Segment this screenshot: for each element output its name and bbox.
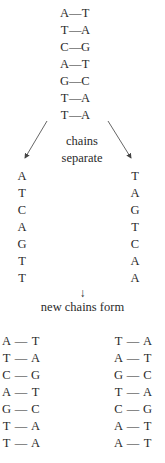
base: G (16, 236, 28, 253)
base: T (129, 168, 141, 185)
bond: — (123, 435, 143, 452)
base-left: G (114, 367, 123, 384)
bond: — (123, 333, 143, 350)
base-left: T (2, 350, 11, 367)
base-right: A (31, 350, 40, 367)
bond: — (11, 350, 31, 367)
base-pair: T—A (2, 435, 40, 452)
separated-left-strand: A T C A G T T (16, 168, 28, 287)
bond: — (123, 367, 143, 384)
base: G (129, 202, 141, 219)
base-right: T (143, 435, 152, 452)
base-pair: A—T (114, 435, 152, 452)
base-pair: G—C (114, 367, 152, 384)
base-right: A (143, 333, 152, 350)
base-pair: T—A (2, 418, 40, 435)
base-right: C (143, 367, 152, 384)
bond: — (11, 401, 31, 418)
base: A (129, 253, 141, 270)
base-pair: A—T (2, 333, 40, 350)
bond: — (123, 401, 143, 418)
bond: — (11, 367, 31, 384)
base-left: A (114, 350, 123, 367)
base: A (16, 219, 28, 236)
base-left: C (114, 401, 123, 418)
base-pair: A—T (2, 384, 40, 401)
bond: — (11, 384, 31, 401)
base-pair: C—G (2, 367, 40, 384)
base-pair: T—A (2, 350, 40, 367)
base: A (16, 168, 28, 185)
base-left: T (2, 418, 11, 435)
base-pair: T—A (114, 384, 152, 401)
bond: — (123, 350, 143, 367)
base-right: T (143, 350, 152, 367)
arrow-left-icon (25, 121, 47, 158)
base-right: C (31, 401, 40, 418)
base-pair: A—T (114, 350, 152, 367)
step1-label-line1: chains (52, 133, 112, 150)
base-left: A (2, 384, 11, 401)
base-right: T (31, 333, 40, 350)
base: C (129, 236, 141, 253)
base-left: G (2, 401, 11, 418)
step2-label: new chains form (20, 299, 145, 316)
base-right: A (31, 418, 40, 435)
bond: — (123, 384, 143, 401)
base: T (16, 185, 28, 202)
base-left: T (114, 333, 123, 350)
base-right: G (31, 367, 40, 384)
new-duplex-right: T—A A—T G—C T—A C—G A—T A—T (114, 333, 152, 452)
base-right: G (143, 401, 152, 418)
bond: — (11, 418, 31, 435)
base-right: T (31, 384, 40, 401)
base-pair: C—G (114, 401, 152, 418)
base-pair: G—C (2, 401, 40, 418)
base: C (16, 202, 28, 219)
base-left: T (114, 384, 123, 401)
base-left: C (2, 367, 11, 384)
base-right: A (31, 435, 40, 452)
base: A (129, 270, 141, 287)
base-left: A (114, 418, 123, 435)
bond: — (123, 418, 143, 435)
base-pair: A—T (114, 418, 152, 435)
new-duplex-left: A—T T—A C—G A—T G—C T—A T—A (2, 333, 40, 452)
base-left: A (114, 435, 123, 452)
base-left: A (2, 333, 11, 350)
separated-right-strand: T A G T C A A (129, 168, 141, 287)
base: T (129, 219, 141, 236)
base-right: T (143, 418, 152, 435)
base-pair: T—A (114, 333, 152, 350)
bond: — (11, 435, 31, 452)
base: T (16, 270, 28, 287)
step1-label-line2: separate (52, 150, 112, 167)
base-right: A (143, 384, 152, 401)
bond: — (11, 333, 31, 350)
step1-label: chains separate (52, 133, 112, 167)
base: A (129, 185, 141, 202)
base: T (16, 253, 28, 270)
base-left: T (2, 435, 11, 452)
